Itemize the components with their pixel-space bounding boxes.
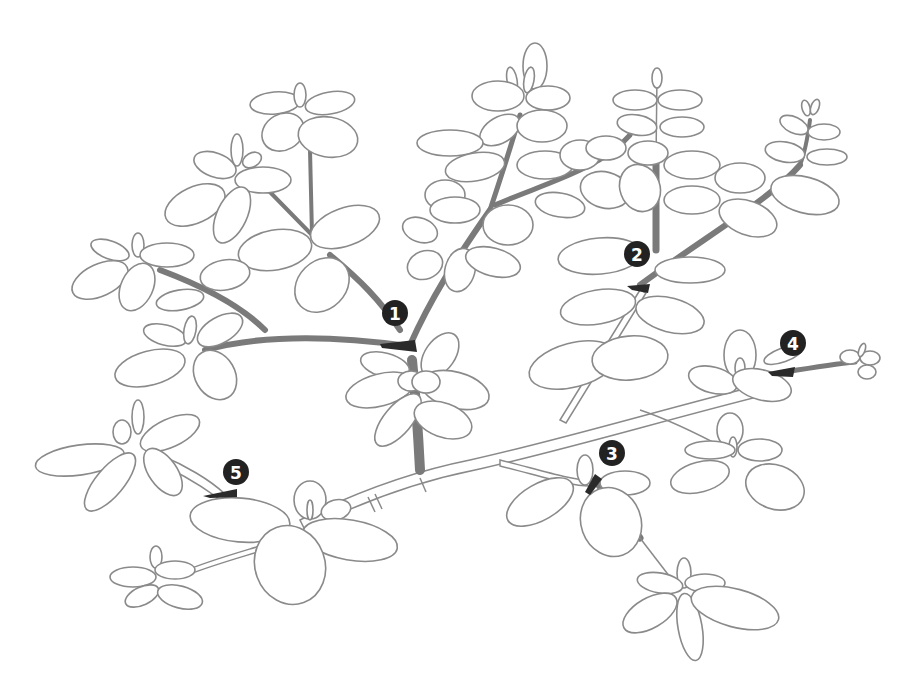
marker-2: 2 [624, 241, 650, 267]
marker-5-label: 5 [230, 463, 242, 483]
cut-mark-4 [768, 367, 795, 377]
marker-3: 3 [599, 440, 625, 466]
marker-2-label: 2 [631, 245, 643, 265]
marker-4: 4 [780, 330, 806, 356]
left-branch [205, 338, 408, 350]
leaves [33, 43, 880, 663]
marker-3-label: 3 [606, 444, 618, 464]
marker-5: 5 [223, 459, 249, 485]
marker-1-label: 1 [389, 304, 401, 324]
marker-1: 1 [382, 300, 408, 326]
marker-4-label: 4 [787, 334, 799, 354]
plant-illustration: 1 2 3 4 5 [0, 0, 915, 692]
